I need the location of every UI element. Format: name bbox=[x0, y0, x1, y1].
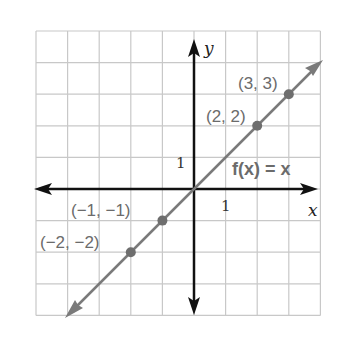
point-label: (−1, −1) bbox=[71, 201, 131, 220]
function-graph: x y 1 1 (−2, −2) (−1, −1) (2, 2) (3, 3) … bbox=[0, 0, 344, 342]
point-label: (−2, −2) bbox=[40, 233, 100, 252]
y-axis-label: y bbox=[203, 38, 214, 58]
function-label: f(x) = x bbox=[232, 159, 291, 179]
data-point bbox=[157, 216, 167, 226]
x-axis-label: x bbox=[308, 200, 318, 220]
point-label: (3, 3) bbox=[238, 74, 278, 93]
x-tick-label-1: 1 bbox=[221, 197, 231, 215]
data-point bbox=[284, 89, 294, 99]
data-point bbox=[126, 247, 136, 257]
data-point bbox=[252, 121, 262, 131]
point-label: (2, 2) bbox=[206, 107, 246, 126]
y-tick-label-1: 1 bbox=[176, 154, 186, 172]
